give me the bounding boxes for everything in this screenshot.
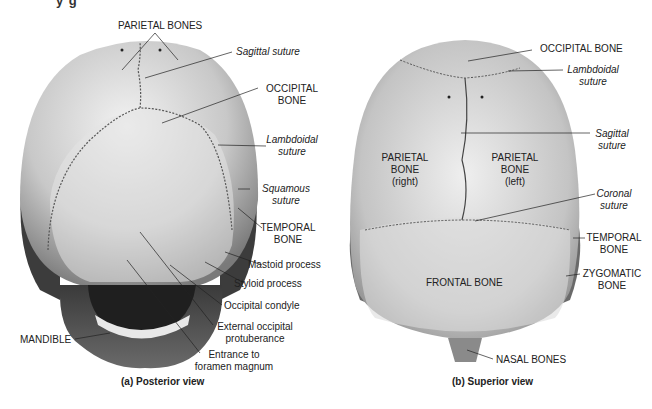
skull-illustrations: [0, 0, 652, 409]
label-sagittal-suture-superior: Sagittal suture: [590, 128, 634, 152]
label-frontal-bone: FRONTAL BONE: [426, 277, 503, 289]
label-temporal-bone-superior: TEMPORAL BONE: [584, 232, 644, 256]
label-styloid-process: Styloid process: [234, 278, 302, 290]
label-occipital-condyle: Occipital condyle: [224, 300, 300, 312]
label-parietal-bones: PARIETAL BONES: [118, 20, 202, 32]
label-foramen-magnum: Entrance to foramen magnum: [192, 349, 276, 373]
label-occipital-bone: OCCIPITAL BONE: [262, 83, 322, 107]
label-squamous-suture: Squamous suture: [256, 183, 316, 207]
label-nasal-bones: NASAL BONES: [496, 354, 566, 366]
label-occipital-bone-superior: OCCIPITAL BONE: [540, 43, 623, 55]
label-lambdoidal-suture: Lambdoidal suture: [262, 134, 322, 158]
label-coronal-suture: Coronal suture: [592, 188, 636, 212]
label-external-occipital-protuberance: External occipital protuberance: [212, 321, 298, 345]
label-mastoid-process: Mastoid process: [248, 259, 321, 271]
label-parietal-bone-left: PARIETAL BONE (left): [488, 152, 542, 188]
label-parietal-bone-right: PARIETAL BONE (right): [378, 152, 432, 188]
label-lambdoidal-suture-superior: Lambdoidal suture: [563, 64, 623, 88]
label-mandible: MANDIBLE: [20, 334, 71, 346]
label-sagittal-suture: Sagittal suture: [236, 46, 300, 58]
label-temporal-bone-posterior: TEMPORAL BONE: [258, 222, 318, 246]
caption-superior-view: (b) Superior view: [452, 376, 533, 387]
caption-posterior-view: (a) Posterior view: [121, 376, 204, 387]
superior-skull: [350, 40, 595, 362]
posterior-skull: [20, 33, 266, 368]
label-zygomatic-bone: ZYGOMATIC BONE: [580, 268, 644, 292]
